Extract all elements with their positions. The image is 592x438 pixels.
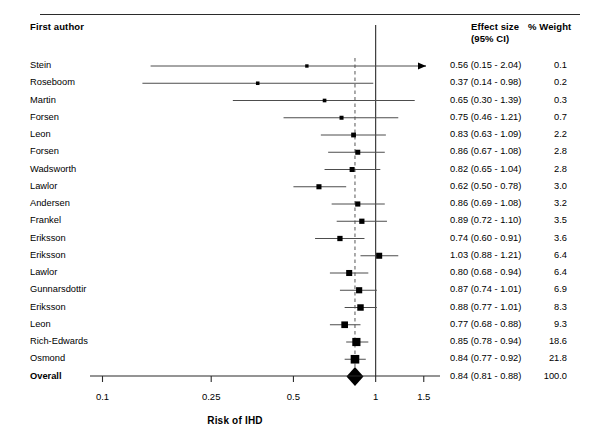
effect-size-value: 0.89 (0.72 - 1.10) [450, 215, 524, 225]
point-estimate-marker [356, 287, 362, 293]
weight-value: 6.4 [521, 267, 567, 277]
point-estimate-marker [323, 99, 327, 103]
weight-value: 0.3 [521, 95, 567, 105]
study-author-label: Gunnarsdottir [30, 284, 86, 294]
effect-size-value: 0.80 (0.68 - 0.94) [450, 267, 524, 277]
point-estimate-marker [350, 167, 355, 172]
weight-value: 2.2 [521, 129, 567, 139]
weight-value: 3.0 [521, 181, 567, 191]
study-author-label: Forsen [30, 146, 59, 156]
point-estimate-marker [346, 270, 352, 276]
effect-size-value: 0.88 (0.77 - 1.01) [450, 302, 524, 312]
study-row-graphic [284, 116, 399, 120]
x-axis-tick-label: 1 [373, 391, 378, 402]
effect-size-value: 0.75 (0.46 - 1.21) [450, 112, 524, 122]
weight-value: 6.4 [521, 250, 567, 260]
study-author-label: Frankel [30, 215, 61, 225]
study-row-graphic [293, 184, 346, 189]
study-author-label: Eriksson [30, 302, 66, 312]
study-row-graphic [346, 338, 368, 346]
overall-row-label: Overall [30, 371, 62, 381]
weight-value: 100.0 [521, 371, 567, 381]
effect-size-value: 0.85 (0.78 - 0.94) [450, 336, 524, 346]
effect-size-value: 0.86 (0.69 - 1.08) [450, 198, 524, 208]
point-estimate-marker [357, 304, 363, 310]
point-estimate-marker [340, 116, 344, 120]
study-row-graphic [142, 81, 373, 85]
study-author-label: Leon [30, 129, 51, 139]
study-author-label: Forsen [30, 112, 59, 122]
weight-value: 0.2 [521, 77, 567, 87]
point-estimate-marker [337, 236, 342, 241]
effect-size-value: 0.84 (0.77 - 0.92) [450, 353, 524, 363]
weight-value: 3.5 [521, 215, 567, 225]
point-estimate-marker [341, 321, 348, 328]
weight-value: 2.8 [521, 146, 567, 156]
x-axis-label: Risk of IHD [0, 415, 470, 426]
weight-value: 0.1 [521, 60, 567, 70]
study-row-graphic [315, 236, 364, 241]
x-axis-tick-label: 0.5 [287, 391, 300, 402]
study-row-graphic [151, 63, 426, 70]
study-row-graphic [340, 287, 377, 293]
effect-size-value: 0.87 (0.74 - 1.01) [450, 284, 524, 294]
point-estimate-marker [355, 201, 360, 206]
forest-plot: First author Effect size (95% CI) % Weig… [0, 0, 592, 438]
effect-size-value: 0.74 (0.60 - 0.91) [450, 233, 524, 243]
effect-size-value: 0.83 (0.63 - 1.09) [450, 129, 524, 139]
study-row-graphic [345, 355, 366, 364]
study-row-graphic [325, 167, 381, 172]
study-row-graphic [328, 150, 385, 155]
effect-size-value: 0.82 (0.65 - 1.04) [450, 164, 524, 174]
weight-value: 6.9 [521, 284, 567, 294]
study-row-graphic [330, 270, 368, 276]
weight-value: 9.3 [521, 319, 567, 329]
weight-value: 3.6 [521, 233, 567, 243]
study-row-graphic [345, 304, 377, 310]
effect-size-value: 0.37 (0.14 - 0.98) [450, 77, 524, 87]
study-author-label: Lawlor [30, 181, 57, 191]
point-estimate-marker [305, 64, 308, 67]
x-axis-tick-label: 1.5 [417, 391, 430, 402]
study-author-label: Lawlor [30, 267, 57, 277]
point-estimate-marker [359, 219, 364, 224]
weight-value: 3.2 [521, 198, 567, 208]
effect-size-value: 0.86 (0.67 - 1.08) [450, 146, 524, 156]
study-row-graphic [332, 201, 385, 206]
weight-value: 21.8 [521, 353, 567, 363]
study-row-graphic [337, 219, 387, 224]
point-estimate-marker [352, 338, 360, 346]
point-estimate-marker [376, 253, 382, 259]
study-author-label: Osmond [30, 353, 65, 363]
study-row-graphic [360, 253, 398, 259]
study-author-label: Rich-Edwards [30, 336, 88, 346]
point-estimate-marker [316, 184, 321, 189]
effect-size-value: 0.77 (0.68 - 0.88) [450, 319, 524, 329]
study-row-graphic [330, 321, 361, 328]
study-author-label: Eriksson [30, 250, 66, 260]
study-author-label: Leon [30, 319, 51, 329]
study-row-graphic [233, 99, 415, 103]
study-author-label: Eriksson [30, 233, 66, 243]
effect-size-value: 1.03 (0.88 - 1.21) [450, 250, 524, 260]
point-estimate-marker [351, 355, 360, 364]
weight-value: 0.7 [521, 112, 567, 122]
x-axis-tick-label: 0.1 [96, 391, 109, 402]
point-estimate-marker [256, 81, 260, 85]
point-estimate-marker [355, 150, 360, 155]
effect-size-value: 0.65 (0.30 - 1.39) [450, 95, 524, 105]
study-author-label: Roseboom [30, 77, 75, 87]
x-axis-tick-label: 0.25 [202, 391, 221, 402]
weight-value: 8.3 [521, 302, 567, 312]
point-estimate-marker [351, 133, 356, 138]
effect-size-value: 0.62 (0.50 - 0.78) [450, 181, 524, 191]
weight-value: 2.8 [521, 164, 567, 174]
study-author-label: Stein [30, 60, 51, 70]
study-author-label: Andersen [30, 198, 70, 208]
effect-size-value: 0.84 (0.81 - 0.88) [450, 371, 524, 381]
study-author-label: Martin [30, 95, 56, 105]
study-author-label: Wadsworth [30, 164, 76, 174]
weight-value: 18.6 [521, 336, 567, 346]
effect-size-value: 0.56 (0.15 - 2.04) [450, 60, 524, 70]
